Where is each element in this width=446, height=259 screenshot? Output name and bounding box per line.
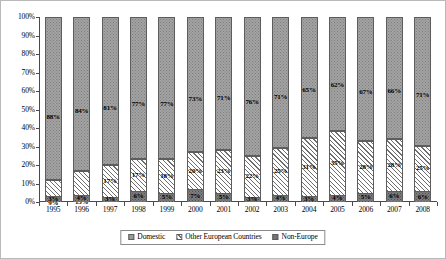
bar-slot: 84%13%4% (67, 17, 95, 202)
segment-domestic[interactable]: 77% (158, 17, 175, 159)
segment-value-label: 67% (359, 89, 372, 96)
bar-group: 88%9%3%84%13%4%81%17%3%77%17%6%77%18%5%7… (39, 17, 437, 202)
segment-other-european[interactable]: 25% (272, 148, 289, 194)
chart-legend: DomesticOther European CountriesNon-Euro… (120, 230, 325, 245)
bar-slot: 73%20%7% (181, 17, 209, 202)
segment-value-label: 20% (189, 168, 202, 175)
segment-value-label: 22% (245, 173, 258, 180)
bar-slot: 88%9%3% (39, 17, 67, 202)
bar-slot: 81%17%3% (96, 17, 124, 202)
stacked-bar[interactable]: 66%28%6% (386, 17, 403, 202)
y-axis-tick-label: 40% (22, 124, 35, 132)
segment-non-europe[interactable]: 5% (215, 193, 232, 202)
segment-non-europe[interactable]: 5% (357, 193, 374, 202)
segment-domestic[interactable]: 84% (73, 17, 90, 171)
x-axis-labels: 1995199619971998199920002001200220032004… (39, 206, 437, 214)
segment-domestic[interactable]: 73% (187, 17, 204, 152)
stacked-bar[interactable]: 88%9%3% (45, 17, 62, 202)
segment-other-european[interactable]: 18% (158, 159, 175, 192)
y-axis-tick-label: 20% (22, 161, 35, 169)
legend-item[interactable]: Other European Countries (176, 233, 261, 241)
stacked-bar[interactable]: 67%28%5% (357, 17, 374, 202)
y-axis-tick-label: 80% (22, 50, 35, 58)
segment-other-european[interactable]: 17% (130, 159, 147, 190)
y-axis-tick-label: 60% (22, 87, 35, 95)
legend-swatch-other-european (176, 234, 182, 240)
stacked-bar[interactable]: 81%17%3% (102, 17, 119, 202)
segment-other-european[interactable]: 35% (329, 131, 346, 195)
segment-domestic[interactable]: 71% (414, 17, 431, 146)
bar-slot: 65%31%3% (295, 17, 323, 202)
segment-non-europe[interactable]: 4% (329, 195, 346, 202)
segment-domestic[interactable]: 66% (386, 17, 403, 139)
bar-slot: 71%25%4% (266, 17, 294, 202)
stacked-bar[interactable]: 77%17%6% (130, 17, 147, 202)
segment-non-europe[interactable]: 7% (187, 189, 204, 202)
segment-non-europe[interactable]: 6% (130, 191, 147, 202)
legend-item[interactable]: Non-Europe (273, 233, 318, 241)
bar-slot: 71%23%5% (210, 17, 238, 202)
segment-other-european[interactable]: 23% (215, 150, 232, 193)
segment-other-european[interactable]: 13% (73, 171, 90, 195)
segment-other-european[interactable]: 17% (102, 165, 119, 196)
segment-value-label: 88% (47, 114, 60, 121)
segment-value-label: 84% (75, 108, 88, 115)
segment-value-label: 6% (389, 193, 399, 200)
x-axis-tick-mark (437, 202, 438, 206)
stacked-bar[interactable]: 62%35%4% (329, 17, 346, 202)
y-axis-tick-label: 10% (22, 180, 35, 188)
segment-other-european[interactable]: 20% (187, 152, 204, 189)
segment-value-label: 66% (388, 88, 401, 95)
stacked-bar[interactable]: 77%18%5% (158, 17, 175, 202)
segment-other-european[interactable]: 25% (414, 146, 431, 191)
segment-non-europe[interactable]: 6% (414, 191, 431, 202)
segment-domestic[interactable]: 76% (244, 17, 261, 156)
x-axis-tick-label: 2007 (380, 206, 408, 214)
segment-other-european[interactable]: 28% (386, 139, 403, 191)
segment-value-label: 17% (103, 178, 116, 185)
stacked-bar[interactable]: 71%25%4% (272, 17, 289, 202)
segment-domestic[interactable]: 62% (329, 17, 346, 131)
plot-area: 0%10%20%30%40%50%60%70%80%90%100% 88%9%3… (39, 17, 437, 202)
segment-value-label: 77% (160, 101, 173, 108)
segment-domestic[interactable]: 71% (215, 17, 232, 150)
segment-domestic[interactable]: 71% (272, 17, 289, 148)
legend-swatch-non-europe (273, 234, 279, 240)
x-axis-tick-label: 2000 (181, 206, 209, 214)
segment-other-european[interactable]: 9% (45, 180, 62, 197)
segment-non-europe[interactable]: 4% (272, 195, 289, 202)
segment-value-label: 31% (302, 164, 315, 171)
segment-value-label: 23% (217, 168, 230, 175)
legend-item[interactable]: Domestic (128, 233, 165, 241)
segment-domestic[interactable]: 77% (130, 17, 147, 159)
segment-domestic[interactable]: 67% (357, 17, 374, 141)
segment-other-european[interactable]: 22% (244, 156, 261, 196)
segment-value-label: 71% (217, 95, 230, 102)
segment-value-label: 6% (133, 193, 143, 200)
segment-other-european[interactable]: 31% (301, 138, 318, 196)
segment-non-europe[interactable]: 5% (158, 193, 175, 202)
bar-slot: 67%28%5% (352, 17, 380, 202)
segment-non-europe[interactable]: 4% (73, 195, 90, 202)
x-axis-tick-label: 1995 (39, 206, 67, 214)
stacked-bar[interactable]: 76%22%3% (244, 17, 261, 202)
bar-slot: 77%18%5% (153, 17, 181, 202)
segment-domestic[interactable]: 88% (45, 17, 62, 180)
stacked-bar[interactable]: 84%13%4% (73, 17, 90, 202)
segment-value-label: 28% (388, 162, 401, 169)
stacked-bar[interactable]: 73%20%7% (187, 17, 204, 202)
bar-slot: 77%17%6% (124, 17, 152, 202)
stacked-bar[interactable]: 65%31%3% (301, 17, 318, 202)
x-axis: 1995199619971998199920002001200220032004… (39, 202, 437, 218)
segment-other-european[interactable]: 28% (357, 141, 374, 193)
stacked-bar[interactable]: 71%23%5% (215, 17, 232, 202)
segment-non-europe[interactable]: 6% (386, 191, 403, 202)
x-axis-tick-label: 2006 (352, 206, 380, 214)
segment-domestic[interactable]: 81% (102, 17, 119, 165)
segment-value-label: 5% (361, 194, 371, 201)
stacked-bar[interactable]: 71%25%6% (414, 17, 431, 202)
segment-domestic[interactable]: 65% (301, 17, 318, 138)
segment-value-label: 77% (132, 101, 145, 108)
y-axis-tick-label: 0% (25, 198, 35, 206)
y-axis-tick-label: 90% (22, 32, 35, 40)
